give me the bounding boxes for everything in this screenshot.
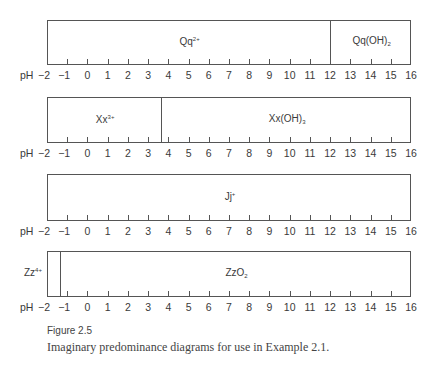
tick-label: 8	[246, 147, 252, 159]
tick-label: 4	[165, 69, 171, 81]
axis-tick	[371, 137, 372, 142]
axis-tick	[209, 215, 210, 220]
species-label-outside: Zz4+	[24, 266, 42, 277]
axis-tick	[128, 291, 129, 296]
axis-tick	[310, 215, 311, 220]
tick-label: 13	[344, 301, 356, 313]
axis-tick	[249, 215, 250, 220]
axis-tick	[108, 215, 109, 220]
axis-tick	[168, 137, 169, 142]
axis-tick	[290, 215, 291, 220]
tick-label: 15	[385, 69, 397, 81]
tick-label: 13	[344, 147, 356, 159]
tick-label: 12	[324, 69, 336, 81]
tick-label: 14	[365, 301, 377, 313]
axis-title-ph: pH	[20, 69, 33, 81]
axis-tick	[87, 137, 88, 142]
tick-label: 4	[165, 301, 171, 313]
tick-label: 4	[165, 147, 171, 159]
axis-title-ph: pH	[20, 225, 33, 237]
tick-label: 15	[385, 225, 397, 237]
species-label: Qq(OH)2	[352, 35, 390, 47]
tick-label: 7	[226, 69, 232, 81]
axis-tick	[148, 291, 149, 296]
tick-label: 13	[344, 225, 356, 237]
tick-label: 6	[206, 301, 212, 313]
tick-label: 5	[186, 147, 192, 159]
axis-tick	[350, 59, 351, 64]
axis-title-ph: pH	[20, 301, 33, 313]
axis-tick	[189, 215, 190, 220]
tick-label: 8	[246, 69, 252, 81]
axis-tick	[148, 215, 149, 220]
axis-tick	[371, 215, 372, 220]
axis-tick	[128, 137, 129, 142]
tick-label: 10	[284, 225, 296, 237]
predominance-box-1: Qq2+Qq(OH)2	[47, 20, 411, 65]
axis-tick	[128, 59, 129, 64]
species-label: Xx3+	[96, 113, 115, 124]
tick-label: 16	[405, 69, 417, 81]
tick-label: −2	[38, 147, 50, 159]
tick-label: −1	[58, 69, 70, 81]
tick-label: 6	[206, 147, 212, 159]
tick-label: 0	[85, 225, 91, 237]
axis-tick	[168, 59, 169, 64]
predominance-box-3: Jj+	[47, 174, 411, 221]
axis-tick	[189, 291, 190, 296]
axis-tick	[108, 59, 109, 64]
axis-tick	[269, 291, 270, 296]
tick-label: 8	[246, 225, 252, 237]
tick-label: 0	[85, 69, 91, 81]
tick-label: 2	[125, 301, 131, 313]
axis-tick	[168, 291, 169, 296]
axis-tick	[87, 59, 88, 64]
tick-label: −1	[58, 225, 70, 237]
axis-tick	[67, 291, 68, 296]
tick-label: 5	[186, 225, 192, 237]
tick-label: 2	[125, 225, 131, 237]
axis-tick	[108, 291, 109, 296]
tick-label: 1	[105, 147, 111, 159]
axis-tick	[350, 137, 351, 142]
figure-caption: Imaginary predominance diagrams for use …	[47, 340, 329, 355]
tick-label: 16	[405, 225, 417, 237]
axis-tick	[67, 59, 68, 64]
tick-label: 14	[365, 69, 377, 81]
axis-tick	[229, 215, 230, 220]
tick-label: 3	[145, 147, 151, 159]
axis-tick	[371, 291, 372, 296]
axis-tick	[310, 291, 311, 296]
axis-tick	[391, 59, 392, 64]
tick-label: −2	[38, 225, 50, 237]
axis-tick	[87, 215, 88, 220]
tick-label: 1	[105, 69, 111, 81]
axis-tick	[391, 291, 392, 296]
axis-tick	[350, 215, 351, 220]
tick-label: 15	[385, 147, 397, 159]
tick-label: 11	[304, 69, 315, 81]
tick-label: 11	[304, 301, 315, 313]
axis-tick	[249, 59, 250, 64]
axis-tick	[330, 215, 331, 220]
tick-label: 5	[186, 69, 192, 81]
tick-label: 12	[324, 301, 336, 313]
species-label: Qq2+	[179, 36, 199, 47]
tick-label: 14	[365, 147, 377, 159]
tick-label: −2	[38, 301, 50, 313]
axis-tick	[330, 137, 331, 142]
tick-label: −1	[58, 301, 70, 313]
species-label: Jj+	[225, 191, 236, 202]
tick-label: 10	[284, 147, 296, 159]
tick-label: 13	[344, 69, 356, 81]
tick-label: 11	[304, 225, 315, 237]
tick-label: 1	[105, 225, 111, 237]
axis-tick	[290, 59, 291, 64]
axis-tick	[290, 291, 291, 296]
axis-tick	[229, 137, 230, 142]
tick-label: 12	[324, 147, 336, 159]
axis-tick	[310, 137, 311, 142]
tick-label: 9	[267, 69, 273, 81]
axis-tick	[189, 59, 190, 64]
tick-label: 6	[206, 225, 212, 237]
